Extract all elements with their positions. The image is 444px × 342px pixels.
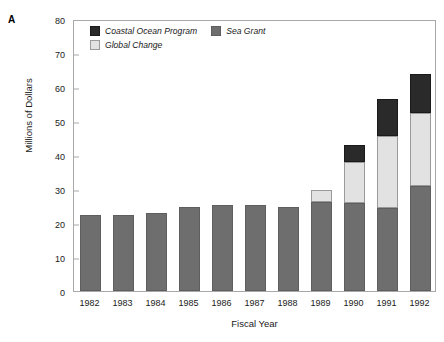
bar-segment [344,203,364,291]
y-tick-label: 40 [14,152,74,162]
x-tick-label: 1985 [178,298,198,308]
bar-segment [377,136,397,208]
y-tick-label: 10 [14,254,74,264]
chart-legend: Coastal Ocean Program Sea Grant Global C… [90,24,279,52]
y-tick-mark [74,157,79,158]
bar-segment [377,208,397,291]
y-tick-mark [74,89,79,90]
y-tick-label: 80 [14,16,74,26]
y-tick-label: 0 [14,288,74,298]
y-tick-label: 50 [14,118,74,128]
y-tick-mark [74,259,79,260]
bar-segment [245,205,265,291]
x-tick-label: 1989 [310,298,330,308]
plot-inner [74,21,435,291]
legend-item-sea-grant: Sea Grant [211,26,265,36]
bar-1986 [212,205,232,291]
bar-1990 [344,145,364,291]
x-tick-label: 1984 [145,298,165,308]
bar-segment [311,202,331,291]
x-axis-title: Fiscal Year [73,318,436,329]
legend-item-global-change: Global Change [90,40,162,50]
bar-segment [179,207,199,291]
legend-swatch-icon [90,26,100,36]
legend-swatch-icon [211,26,221,36]
bar-1992 [410,74,430,291]
x-tick-label: 1986 [211,298,231,308]
x-tick-label: 1982 [79,298,99,308]
legend-row-1: Coastal Ocean Program Sea Grant [90,24,279,38]
bar-segment [410,74,430,112]
y-tick-label: 20 [14,220,74,230]
y-tick-label: 70 [14,50,74,60]
bar-1984 [146,213,166,291]
bar-segment [377,99,397,136]
bar-segment [113,215,133,292]
bar-segment [344,162,364,203]
y-tick-label: 60 [14,84,74,94]
y-tick-mark [74,55,79,56]
x-tick-label: 1987 [244,298,264,308]
bar-segment [410,113,430,187]
bar-segment [80,215,100,292]
legend-swatch-icon [90,40,100,50]
bar-segment [311,190,331,202]
x-tick-label: 1991 [376,298,396,308]
bar-segment [410,186,430,291]
bar-1983 [113,215,133,292]
bar-1987 [245,205,265,291]
y-tick-mark [74,123,79,124]
bar-segment [146,213,166,291]
bar-1985 [179,207,199,291]
bar-segment [344,145,364,162]
x-tick-label: 1988 [277,298,297,308]
legend-label: Coastal Ocean Program [105,26,197,36]
plot-area: 01020304050607080 [73,20,436,292]
y-tick-label: 30 [14,186,74,196]
bar-1988 [278,207,298,291]
bar-1989 [311,190,331,291]
bar-segment [212,205,232,291]
legend-label: Sea Grant [226,26,265,36]
bar-1982 [80,215,100,292]
y-tick-mark [74,191,79,192]
legend-item-coastal-ocean-program: Coastal Ocean Program [90,26,197,36]
bar-1991 [377,99,397,291]
legend-label: Global Change [105,40,162,50]
y-tick-mark [74,225,79,226]
x-tick-label: 1990 [343,298,363,308]
x-tick-label: 1983 [112,298,132,308]
x-tick-label: 1992 [409,298,429,308]
figure: A Millions of Dollars 01020304050607080 … [0,0,444,342]
bar-segment [278,207,298,291]
legend-row-2: Global Change [90,38,279,52]
